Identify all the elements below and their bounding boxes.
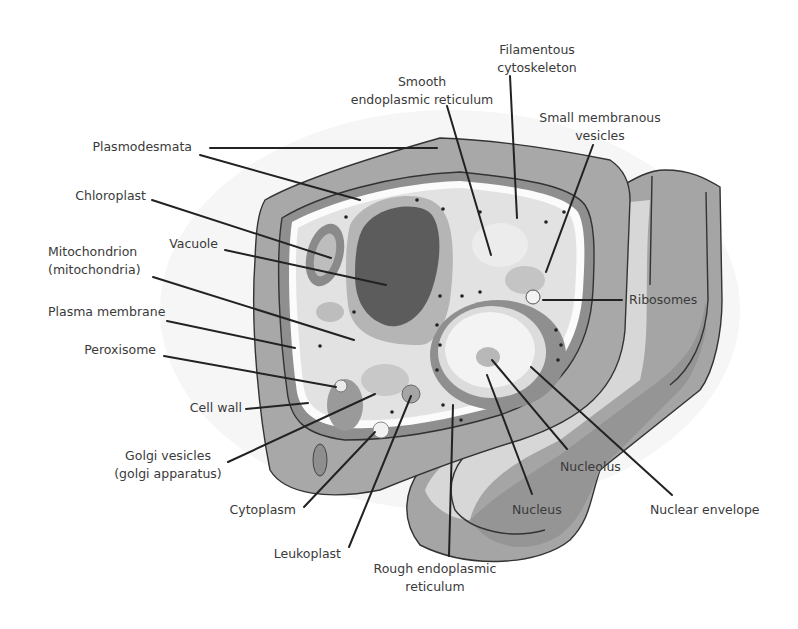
label-golgi-vesicles: Golgi vesicles(golgi apparatus) xyxy=(114,448,222,481)
ribosome-shape xyxy=(526,290,540,304)
label-nucleolus: Nucleolus xyxy=(560,459,621,474)
label-leukoplast: Leukoplast xyxy=(274,546,341,561)
label-smooth-er: Smoothendoplasmic reticulum xyxy=(351,74,494,107)
label-plasmodesmata: Plasmodesmata xyxy=(92,139,192,154)
plastid-in-wall xyxy=(313,444,327,476)
label-vacuole: Vacuole xyxy=(169,236,218,251)
label-mitochondrion: Mitochondrion(mitochondria) xyxy=(48,244,141,277)
label-filamentous-cytoskeleton: Filamentouscytoskeleton xyxy=(497,42,576,75)
smooth-er-shape xyxy=(472,223,528,267)
golgi-shape xyxy=(361,364,409,396)
plant-cell-diagram: Smoothendoplasmic reticulumFilamentouscy… xyxy=(0,0,798,629)
label-cell-wall: Cell wall xyxy=(190,400,242,415)
label-peroxisome: Peroxisome xyxy=(84,342,156,357)
mitochondrion-shape xyxy=(316,302,344,322)
label-nuclear-envelope: Nuclear envelope xyxy=(650,502,760,517)
cytoplasm-vesicle xyxy=(373,422,389,438)
label-nucleus: Nucleus xyxy=(512,502,562,517)
peroxisome-shape xyxy=(335,380,347,392)
label-cytoplasm: Cytoplasm xyxy=(230,502,296,517)
label-rough-er: Rough endoplasmicreticulum xyxy=(374,561,497,594)
leukoplast-shape xyxy=(402,385,420,403)
label-chloroplast: Chloroplast xyxy=(75,188,146,203)
label-plasma-membrane: Plasma membrane xyxy=(48,304,166,319)
label-ribosomes: Ribosomes xyxy=(629,292,697,307)
